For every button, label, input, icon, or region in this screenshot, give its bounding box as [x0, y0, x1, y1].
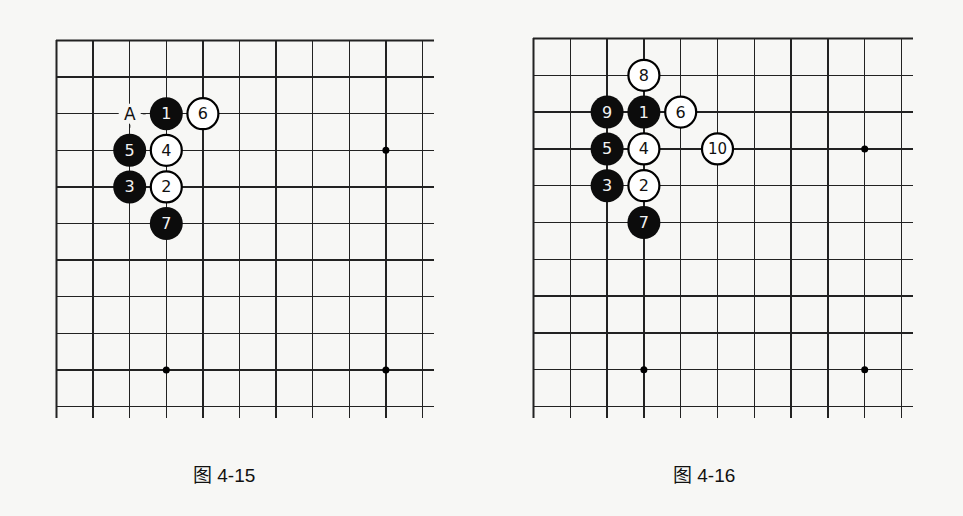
white-stone-10: 10	[702, 133, 733, 164]
black-stone-5: 5	[591, 132, 624, 165]
svg-text:3: 3	[125, 177, 135, 196]
svg-text:1: 1	[639, 103, 649, 122]
white-stone-2: 2	[151, 171, 182, 202]
board-grid: 12345678910	[533, 38, 915, 420]
star-point	[640, 366, 647, 373]
svg-text:6: 6	[676, 103, 686, 122]
black-stone-3: 3	[113, 170, 146, 203]
svg-text:5: 5	[125, 141, 135, 160]
svg-text:10: 10	[708, 140, 727, 158]
go-board-figure-4-15: A1234567	[56, 40, 436, 420]
star-point	[382, 147, 389, 154]
svg-text:8: 8	[639, 66, 649, 85]
black-stone-1: 1	[150, 97, 183, 130]
white-stone-4: 4	[151, 135, 182, 166]
caption-figure-4-15: 图 4-15	[193, 460, 255, 487]
white-stone-4: 4	[628, 133, 659, 164]
svg-text:2: 2	[639, 176, 649, 195]
black-stone-5: 5	[113, 134, 146, 167]
svg-text:2: 2	[161, 177, 171, 196]
caption-figure-4-16: 图 4-16	[673, 460, 735, 487]
white-stone-6: 6	[187, 98, 218, 129]
white-stone-2: 2	[628, 170, 659, 201]
svg-text:3: 3	[602, 176, 612, 195]
point-marker-a: A	[124, 104, 136, 124]
white-stone-6: 6	[665, 97, 696, 128]
svg-text:7: 7	[161, 214, 171, 233]
black-stone-7: 7	[627, 206, 660, 239]
svg-text:9: 9	[602, 103, 612, 122]
svg-text:6: 6	[198, 104, 208, 123]
svg-text:4: 4	[639, 139, 649, 158]
black-stone-7: 7	[150, 207, 183, 240]
white-stone-8: 8	[628, 60, 659, 91]
svg-text:4: 4	[161, 141, 171, 160]
black-stone-3: 3	[591, 169, 624, 202]
star-point	[861, 366, 868, 373]
svg-text:7: 7	[639, 213, 649, 232]
star-point	[861, 145, 868, 152]
go-board-figure-4-16: 12345678910	[533, 38, 915, 420]
star-point	[163, 366, 170, 373]
black-stone-1: 1	[627, 96, 660, 129]
svg-text:5: 5	[602, 139, 612, 158]
black-stone-9: 9	[591, 96, 624, 129]
board-grid: A1234567	[56, 40, 436, 420]
star-point	[382, 366, 389, 373]
svg-text:1: 1	[161, 104, 171, 123]
